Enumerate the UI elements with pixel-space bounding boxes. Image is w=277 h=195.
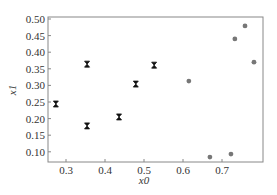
circle-marker: [232, 37, 237, 42]
x-tick-label: 0.7: [215, 164, 229, 176]
y-tick-label: 0.20: [26, 113, 46, 125]
x-axis-label: x0: [138, 174, 150, 186]
y-tick-label: 0.50: [26, 13, 46, 25]
circle-marker: [243, 24, 248, 29]
y-axis-label: x1: [6, 85, 18, 96]
circle-marker: [229, 152, 234, 157]
x-tick-label: 0.3: [59, 164, 73, 176]
y-tick-label: 0.40: [26, 46, 46, 58]
y-tick-label: 0.35: [26, 63, 46, 75]
y-tick-label: 0.25: [26, 96, 46, 108]
circle-marker: [186, 79, 191, 84]
plot-area: [48, 17, 263, 162]
scatter-chart: 0.30.40.50.60.7 0.100.150.200.250.300.35…: [0, 0, 277, 195]
circle-marker: [208, 155, 213, 160]
y-axis-ticks: 0.100.150.200.250.300.350.400.450.50: [26, 13, 51, 158]
y-tick-label: 0.45: [26, 30, 46, 42]
circle-marker: [252, 60, 257, 65]
y-tick-label: 0.10: [26, 146, 46, 158]
x-tick-label: 0.4: [98, 164, 112, 176]
x-tick-label: 0.6: [176, 164, 190, 176]
y-tick-label: 0.15: [26, 129, 46, 141]
y-tick-label: 0.30: [26, 79, 46, 91]
